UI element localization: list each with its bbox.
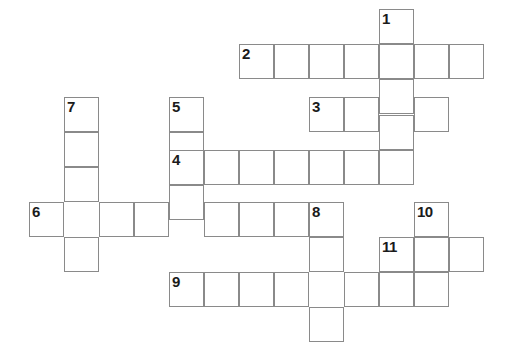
cell-number-3: 3 <box>312 98 320 115</box>
cell-number-10: 10 <box>417 203 433 220</box>
crossword-cell[interactable]: 3 <box>309 97 344 132</box>
crossword-cell[interactable] <box>344 150 379 185</box>
crossword-cell[interactable]: 7 <box>64 97 99 132</box>
cell-number-6: 6 <box>32 203 40 220</box>
cell-number-9: 9 <box>172 273 180 290</box>
crossword-cell[interactable] <box>99 202 134 237</box>
crossword-cell[interactable] <box>274 150 309 185</box>
crossword-cell[interactable] <box>239 202 274 237</box>
crossword-cell[interactable]: 10 <box>414 202 449 237</box>
cell-number-2: 2 <box>242 45 250 62</box>
crossword-cell[interactable]: 1 <box>379 9 414 44</box>
crossword-cell[interactable] <box>239 272 274 307</box>
crossword-cell[interactable] <box>414 44 449 79</box>
crossword-cell[interactable]: 8 <box>309 202 344 237</box>
cell-number-5: 5 <box>172 98 180 115</box>
crossword-cell[interactable] <box>274 202 309 237</box>
crossword-cell[interactable]: 5 <box>169 97 204 132</box>
crossword-cell[interactable] <box>414 272 449 307</box>
crossword-cell[interactable]: 4 <box>169 150 204 185</box>
crossword-cell[interactable]: 2 <box>239 44 274 79</box>
crossword-cell[interactable]: 6 <box>29 202 64 237</box>
crossword-cell[interactable] <box>309 150 344 185</box>
cell-number-1: 1 <box>382 10 390 27</box>
crossword-cell[interactable] <box>274 44 309 79</box>
crossword-cell[interactable] <box>274 272 309 307</box>
crossword-cell[interactable] <box>344 272 379 307</box>
crossword-cell[interactable] <box>239 150 274 185</box>
cell-number-7: 7 <box>67 98 75 115</box>
crossword-cell[interactable] <box>169 185 204 220</box>
crossword-cell[interactable] <box>204 150 239 185</box>
crossword-cell[interactable] <box>204 202 239 237</box>
crossword-cell[interactable] <box>379 79 414 114</box>
crossword-cell[interactable] <box>379 115 414 150</box>
crossword-cell[interactable] <box>379 44 414 79</box>
crossword-cell[interactable] <box>64 132 99 167</box>
crossword-cell[interactable]: 9 <box>169 272 204 307</box>
crossword-cell[interactable] <box>309 44 344 79</box>
crossword-cell[interactable] <box>344 44 379 79</box>
cell-number-8: 8 <box>312 203 320 220</box>
crossword-cell[interactable] <box>344 97 379 132</box>
cell-number-4: 4 <box>172 151 180 168</box>
crossword-grid: 1237546810119 <box>0 0 515 352</box>
crossword-cell[interactable] <box>64 237 99 272</box>
crossword-cell[interactable] <box>64 167 99 202</box>
crossword-cell[interactable] <box>134 202 169 237</box>
crossword-cell[interactable] <box>449 237 484 272</box>
crossword-cell[interactable] <box>449 44 484 79</box>
crossword-cell[interactable] <box>309 307 344 342</box>
crossword-cell[interactable] <box>309 237 344 272</box>
crossword-cell[interactable] <box>414 237 449 272</box>
crossword-cell[interactable]: 11 <box>379 237 414 272</box>
crossword-cell[interactable] <box>204 272 239 307</box>
crossword-cell[interactable] <box>414 97 449 132</box>
cell-number-11: 11 <box>382 238 397 255</box>
crossword-cell[interactable] <box>379 272 414 307</box>
crossword-cell[interactable] <box>379 150 414 185</box>
